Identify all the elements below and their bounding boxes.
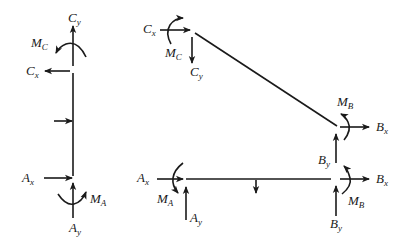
beam-ay-label: Ay [189,210,202,227]
left-ma-label: MA [89,191,107,208]
frame-mb-label: MB [336,94,354,111]
free-body-diagram: Cy MC Cx Ax Ay MA Cx MC Cy MB Bx [0,0,410,250]
beam-ma-arc [173,163,183,193]
frame-cy-label: Cy [190,64,203,81]
left-mc-label: MC [30,35,49,52]
beam-mb-label: MB [347,193,365,210]
left-cx-label: Cx [26,63,39,80]
left-mc-arc [56,43,86,57]
left-ay-label: Ay [68,220,81,237]
left-member: Cy MC Cx Ax Ay MA [21,10,107,237]
beam-ax-label: Ax [136,170,149,187]
beam-member: Ax MA Ay Bx MB By [136,163,388,233]
frame-bx-label: Bx [376,119,388,136]
frame-member: Cx MC Cy MB Bx By [143,18,388,169]
frame-mc-arc [168,18,183,44]
left-cy-label: Cy [68,10,81,27]
beam-ma-label: MA [156,191,174,208]
frame-cx-label: Cx [143,21,156,38]
frame-diagonal-line [195,33,337,126]
left-ma-arc [58,192,86,204]
beam-mb-arc [342,166,350,194]
left-ax-label: Ax [21,170,34,187]
beam-bx-label: Bx [376,171,388,188]
frame-by-label: By [318,152,330,169]
frame-mc-label: MC [164,45,183,62]
beam-by-label: By [330,216,342,233]
